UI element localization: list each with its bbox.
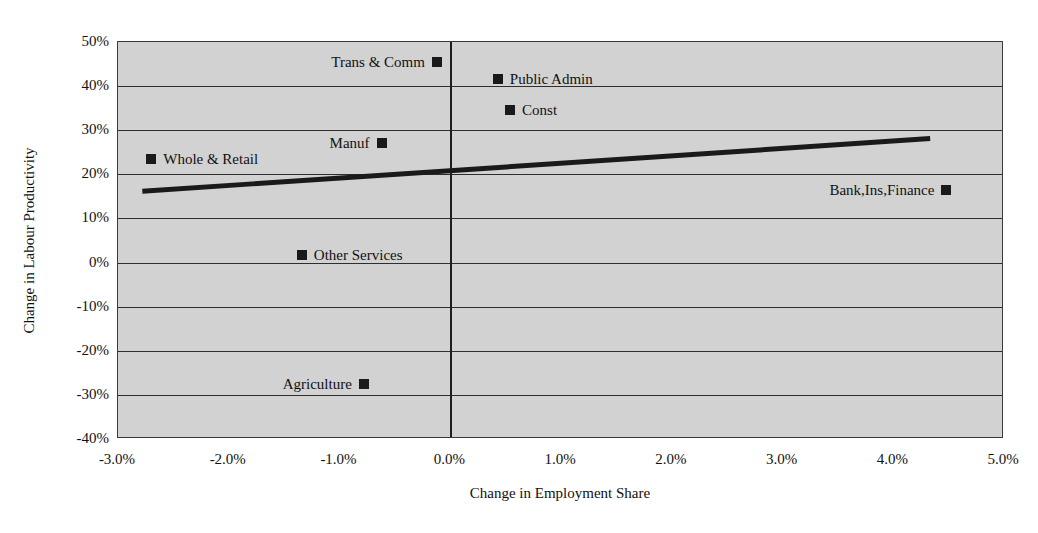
data-point-marker bbox=[493, 74, 503, 84]
x-axis-tick-label: -1.0% bbox=[294, 452, 384, 467]
data-point-marker bbox=[146, 154, 156, 164]
scatter-chart: Change in Labour Productivity Change in … bbox=[0, 0, 1038, 533]
y-axis-tick-label: 20% bbox=[39, 166, 109, 181]
y-axis-tick-label: -10% bbox=[39, 299, 109, 314]
y-axis-tick-label: 50% bbox=[39, 34, 109, 49]
data-point-label: Public Admin bbox=[510, 72, 593, 87]
x-axis-tick-label: -3.0% bbox=[72, 452, 162, 467]
data-point-marker bbox=[941, 185, 951, 195]
data-point-label: Trans & Comm bbox=[331, 54, 425, 69]
data-point-label: Bank,Ins,Finance bbox=[829, 182, 934, 197]
x-axis-tick-label: 4.0% bbox=[847, 452, 937, 467]
data-point-marker bbox=[377, 138, 387, 148]
x-axis-title: Change in Employment Share bbox=[117, 485, 1003, 502]
data-point-label: Const bbox=[522, 103, 557, 118]
data-point-marker bbox=[432, 57, 442, 67]
x-axis-tick-label: 1.0% bbox=[515, 452, 605, 467]
x-axis-tick-label: 3.0% bbox=[737, 452, 827, 467]
x-axis-tick-label: -2.0% bbox=[183, 452, 273, 467]
y-axis-tick-label: -40% bbox=[39, 431, 109, 446]
plot-area: Trans & CommPublic AdminConstManufWhole … bbox=[117, 41, 1003, 438]
y-axis-tick-label: -30% bbox=[39, 387, 109, 402]
data-point-label: Manuf bbox=[330, 136, 370, 151]
trend-line-segment bbox=[142, 139, 930, 192]
y-axis-tick-label: 40% bbox=[39, 78, 109, 93]
data-point-label: Other Services bbox=[314, 247, 403, 262]
y-axis-tick-label: 0% bbox=[39, 255, 109, 270]
trend-line bbox=[118, 42, 1002, 437]
y-axis-tick-label: 30% bbox=[39, 122, 109, 137]
x-axis-tick-label: 0.0% bbox=[404, 452, 494, 467]
x-axis-tick-label: 2.0% bbox=[626, 452, 716, 467]
data-point-marker bbox=[505, 105, 515, 115]
data-point-label: Agriculture bbox=[283, 376, 352, 391]
x-axis-tick-label: 5.0% bbox=[958, 452, 1038, 467]
data-point-marker bbox=[297, 250, 307, 260]
y-axis-title: Change in Labour Productivity bbox=[21, 106, 38, 376]
y-axis-tick-label: 10% bbox=[39, 210, 109, 225]
data-point-marker bbox=[359, 379, 369, 389]
y-axis-tick-label: -20% bbox=[39, 343, 109, 358]
data-point-label: Whole & Retail bbox=[163, 151, 258, 166]
